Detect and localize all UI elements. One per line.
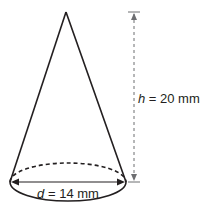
- cone-diagram: h = 20 mm d = 14 mm: [0, 0, 213, 216]
- height-label: h = 20 mm: [138, 91, 200, 106]
- base-back-dashed: [10, 163, 126, 182]
- cone-right-edge: [66, 12, 126, 182]
- height-arrow-bottom-icon: [131, 174, 137, 181]
- diameter-label: d = 14 mm: [37, 186, 99, 201]
- cone-left-edge: [10, 12, 66, 182]
- height-arrow-top-icon: [131, 13, 137, 20]
- diameter-arrow-right-icon: [117, 179, 125, 186]
- diameter-arrow-left-icon: [11, 179, 19, 186]
